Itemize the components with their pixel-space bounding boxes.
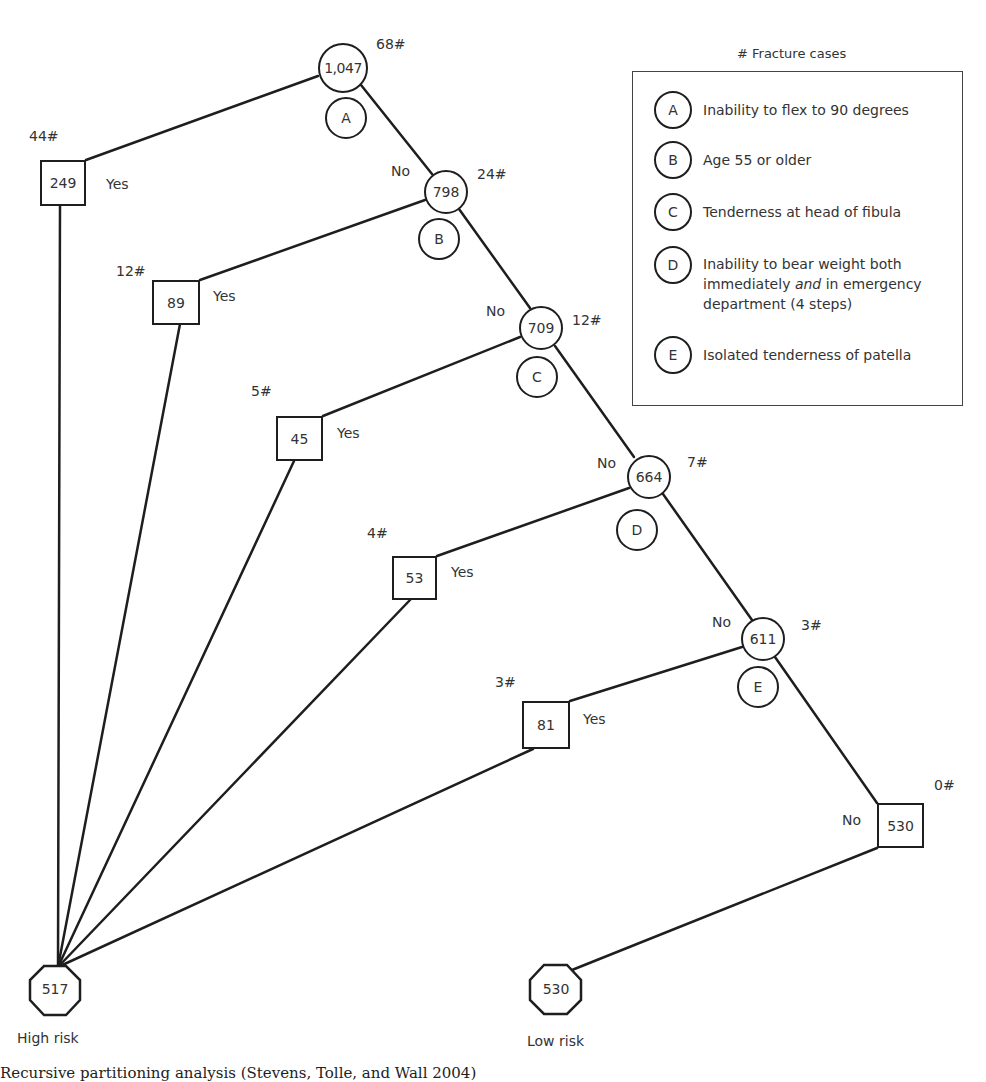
branch-label-yes: Yes [106,176,129,192]
legend-key-a: A [654,91,692,129]
node-count: 611 [750,631,777,647]
fracture-count: 0# [934,777,955,793]
branch-label-no: No [597,455,616,471]
legend-key-e: E [654,336,692,374]
leaf-count: 81 [537,717,555,733]
low-risk-count: 530 [531,981,581,997]
leaf-box-530: 530 [877,803,924,848]
criterion-label: C [532,369,542,385]
criterion-node-a: A [325,97,367,139]
leaf-count: 530 [887,818,914,834]
criterion-label: E [754,679,763,695]
decision-node-root: 1,047 [318,43,368,93]
branch-label-yes: Yes [213,288,236,304]
fracture-count: 3# [495,674,516,690]
decision-node-611: 611 [741,617,785,661]
fracture-count: 4# [367,525,388,541]
leaf-box-81: 81 [522,701,570,749]
leaf-count: 89 [167,295,185,311]
fracture-count: 12# [116,263,146,279]
leaf-box-89: 89 [152,280,200,325]
leaf-count: 249 [50,175,77,191]
node-count: 1,047 [324,60,362,76]
fracture-count: 3# [801,617,822,633]
legend-key-label: C [668,204,678,220]
high-risk-count: 517 [30,981,80,997]
node-count: 709 [528,320,555,336]
branch-label-no: No [842,812,861,828]
criterion-label: A [341,110,351,126]
criterion-node-e: E [737,666,779,708]
fracture-count: 5# [251,383,272,399]
criterion-node-b: B [418,218,460,260]
leaf-count: 53 [406,570,424,586]
legend-text-b: Age 55 or older [703,150,953,170]
legend-key-label: A [668,102,678,118]
fracture-count: 68# [376,36,406,52]
decision-node-709: 709 [519,306,563,350]
legend-title: # Fracture cases [737,46,846,61]
leaf-box-53: 53 [392,556,437,600]
fracture-count: 7# [687,454,708,470]
fracture-count: 24# [477,166,507,182]
legend-key-d: D [654,246,692,284]
criterion-label: B [434,231,444,247]
fracture-count: 12# [572,312,602,328]
fracture-count: 44# [29,128,59,144]
legend-text-e: Isolated tenderness of patella [703,345,953,365]
decision-node-798: 798 [424,170,468,214]
legend-key-b: B [654,141,692,179]
branch-label-yes: Yes [451,564,474,580]
criterion-label: D [632,522,643,538]
branch-label-no: No [486,303,505,319]
low-risk-label: Low risk [527,1033,584,1049]
legend-key-label: E [669,347,678,363]
legend-key-label: D [668,257,679,273]
branch-label-yes: Yes [583,711,606,727]
criterion-node-c: C [516,356,558,398]
legend-text-d-emphasis: and [795,276,821,292]
legend-text-c: Tenderness at head of fibula [703,202,953,222]
figure-caption: Recursive partitioning analysis (Stevens… [0,1064,476,1082]
branch-label-no: No [391,163,410,179]
decision-node-664: 664 [627,455,671,499]
legend-text-d: Inability to bear weight both immediatel… [703,254,938,314]
legend-key-c: C [654,193,692,231]
legend-key-label: B [668,152,678,168]
high-risk-label: High risk [17,1030,79,1046]
branch-label-no: No [712,614,731,630]
criterion-node-d: D [616,509,658,551]
leaf-count: 45 [291,431,309,447]
node-count: 798 [433,184,460,200]
leaf-box-249: 249 [40,160,86,206]
leaf-box-45: 45 [276,416,323,461]
branch-label-yes: Yes [337,425,360,441]
legend-text-a: Inability to flex to 90 degrees [703,100,953,120]
node-count: 664 [636,469,663,485]
